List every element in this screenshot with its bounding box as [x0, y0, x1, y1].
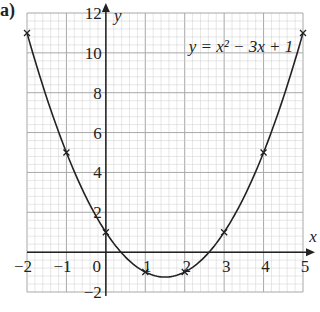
y-axis-arrow-icon [102, 3, 110, 12]
x-tick-label: −2 [14, 257, 32, 276]
x-tick-label: 5 [301, 257, 310, 276]
x-tick-label: 3 [222, 257, 231, 276]
equation-label: y = x² − 3x + 1 [187, 37, 294, 56]
x-axis-label: x [308, 227, 317, 246]
y-tick-label: 8 [93, 84, 102, 103]
y-tick-label: 12 [85, 4, 102, 23]
y-tick-label: 4 [93, 163, 102, 182]
x-tick-label: −1 [53, 257, 71, 276]
y-tick-label: 10 [85, 44, 102, 63]
x-tick-label: 0 [93, 257, 102, 276]
y-tick-label: 6 [93, 124, 102, 143]
quadratic-graph: −2−1012345−224681012xyy = x² − 3x + 1 [0, 0, 320, 312]
y-tick-label: −2 [84, 283, 102, 302]
x-tick-label: 4 [261, 257, 270, 276]
x-axis-arrow-icon [306, 248, 315, 256]
y-axis-label: y [112, 6, 122, 25]
